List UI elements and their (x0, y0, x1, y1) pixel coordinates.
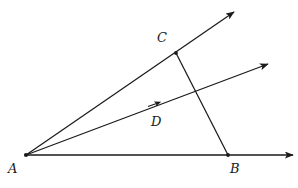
point-A-dot (24, 153, 28, 157)
point-label-A: A (8, 162, 17, 175)
point-B-dot (226, 153, 230, 157)
ray-AD-middle (26, 64, 268, 155)
point-label-B: B (230, 162, 240, 175)
geometry-figure: A B C D (0, 0, 298, 188)
point-label-C: C (157, 31, 167, 44)
segment-C-to-B (176, 53, 228, 155)
ray-AC-upper (26, 12, 234, 155)
point-label-D: D (151, 115, 161, 128)
figure-canvas (0, 0, 298, 188)
point-C-dot (174, 51, 178, 55)
